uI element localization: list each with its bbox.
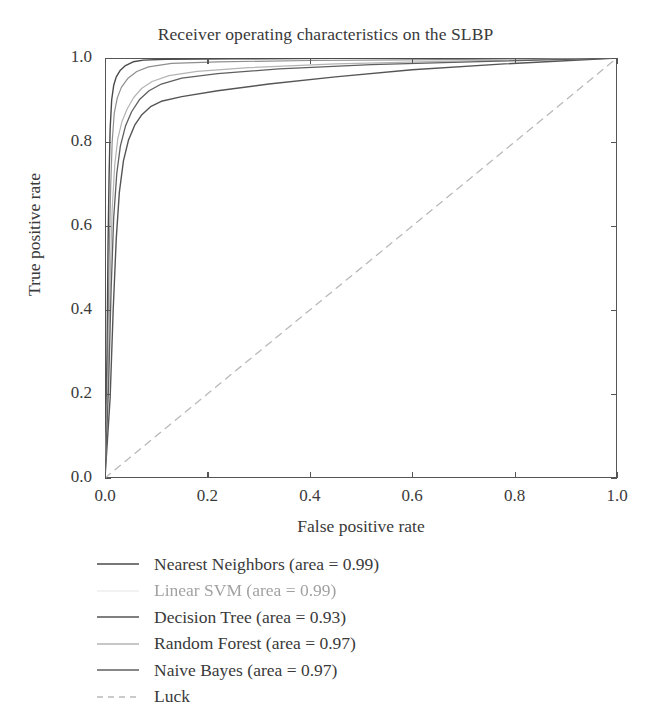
y-tick-mark [611,58,617,59]
y-tick-mark [611,142,617,143]
legend-item[interactable]: Linear SVM (area = 0.99) [96,578,516,605]
legend-line-icon [96,637,140,651]
y-tick-mark [105,142,111,143]
legend-item-label: Random Forest (area = 0.97) [154,633,356,654]
x-tick-label: 0.4 [275,486,345,506]
legend-line-icon [96,690,140,704]
roc-chart-figure: Receiver operating characteristics on th… [0,0,651,728]
legend-item-label: Decision Tree (area = 0.93) [154,607,346,628]
x-tick-mark [310,472,311,478]
y-tick-mark [105,310,111,311]
legend-item[interactable]: Naive Bayes (area = 0.97) [96,657,516,684]
x-tick-mark [617,472,618,478]
x-tick-label: 0.0 [70,486,140,506]
legend-item-label: Linear SVM (area = 0.99) [154,580,336,601]
legend-item-label: Naive Bayes (area = 0.97) [154,660,337,681]
y-tick-mark [105,58,111,59]
x-tick-mark [617,58,618,64]
legend-line-icon [96,663,140,677]
roc-curves [105,58,617,478]
page-title: Receiver operating characteristics on th… [0,24,651,45]
legend-item[interactable]: Luck [96,684,516,711]
legend-line-icon [96,557,140,571]
y-tick-label: 0.6 [30,215,92,235]
y-tick-mark [611,226,617,227]
legend-line-icon [96,584,140,598]
x-axis-label: False positive rate [105,516,617,537]
legend-item[interactable]: Random Forest (area = 0.97) [96,631,516,658]
y-tick-mark [105,394,111,395]
y-tick-mark [611,310,617,311]
legend-item[interactable]: Decision Tree (area = 0.93) [96,604,516,631]
y-tick-label: 1.0 [30,47,92,67]
y-tick-mark [611,478,617,479]
x-tick-mark [412,58,413,64]
y-tick-label: 0.0 [30,467,92,487]
chart-legend: Nearest Neighbors (area = 0.99)Linear SV… [96,551,516,710]
x-tick-mark [207,472,208,478]
legend-line-icon [96,610,140,624]
plot-area [105,58,617,478]
legend-item-label: Nearest Neighbors (area = 0.99) [154,554,379,575]
y-tick-label: 0.4 [30,299,92,319]
y-tick-mark [105,226,111,227]
x-tick-mark [515,58,516,64]
y-tick-mark [611,394,617,395]
x-tick-label: 0.8 [480,486,550,506]
roc-curve-luck [105,58,617,478]
legend-item[interactable]: Nearest Neighbors (area = 0.99) [96,551,516,578]
y-tick-mark [105,478,111,479]
x-tick-mark [412,472,413,478]
x-tick-mark [515,472,516,478]
x-tick-mark [207,58,208,64]
y-tick-label: 0.8 [30,131,92,151]
x-tick-label: 0.2 [172,486,242,506]
x-tick-label: 0.6 [377,486,447,506]
x-tick-label: 1.0 [582,486,651,506]
legend-item-label: Luck [154,686,190,707]
y-tick-label: 0.2 [30,383,92,403]
x-tick-mark [310,58,311,64]
